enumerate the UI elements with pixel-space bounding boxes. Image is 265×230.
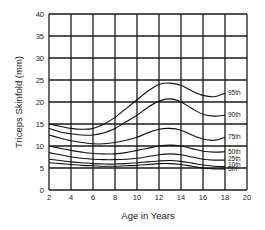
y-tick-label: 15: [36, 120, 44, 129]
y-tick-label: 25: [36, 76, 44, 85]
x-tick-label: 20: [243, 193, 251, 202]
y-tick-label: 10: [36, 142, 44, 151]
chart: 0510152025303540 2468101214161820 95th90…: [0, 0, 265, 230]
x-tick-label: 8: [113, 193, 117, 202]
y-tick-label: 30: [36, 54, 44, 63]
curve-label-90th: 90th: [228, 111, 241, 118]
x-tick-label: 4: [69, 193, 73, 202]
x-tick-label: 6: [91, 193, 95, 202]
x-tick-label: 14: [177, 193, 185, 202]
x-tick-label: 18: [221, 193, 229, 202]
curve-label-50th: 50th: [228, 148, 241, 155]
y-tick-label: 35: [36, 32, 44, 41]
y-tick-label: 40: [36, 10, 44, 19]
x-tick-label: 10: [133, 193, 141, 202]
grid: [49, 14, 247, 190]
y-tick-label: 5: [40, 164, 44, 173]
curve-label-75th: 75th: [228, 133, 241, 140]
x-axis-label: Age in Years: [121, 210, 175, 221]
y-tick-labels: 0510152025303540: [36, 10, 44, 195]
x-tick-label: 2: [47, 193, 51, 202]
x-tick-label: 16: [199, 193, 207, 202]
y-tick-label: 0: [40, 186, 44, 195]
curve-label-95th: 95th: [228, 89, 241, 96]
y-tick-label: 20: [36, 98, 44, 107]
x-tick-labels: 2468101214161820: [47, 193, 251, 202]
curve-label-5th: 5th: [228, 165, 237, 172]
y-axis-label: Triceps Skinfold (mm): [13, 56, 24, 148]
x-tick-label: 12: [155, 193, 163, 202]
